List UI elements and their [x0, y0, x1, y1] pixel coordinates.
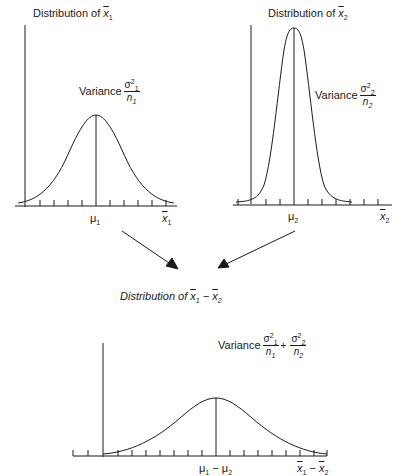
- sub: 1: [135, 85, 139, 92]
- axis-label-x1: x1: [162, 213, 171, 224]
- sub: 2: [294, 217, 298, 224]
- panel-x2: [233, 25, 392, 205]
- sub: 2: [299, 352, 303, 359]
- sup: 2: [298, 332, 302, 339]
- title-x2-prefix: Distribution of: [268, 7, 338, 19]
- title-x2: Distribution of x2: [268, 8, 348, 19]
- sub: 2: [218, 297, 222, 304]
- title-x1-sub: 1: [109, 14, 113, 21]
- variance-diff: Variance σ21 n1 + σ22 n2: [218, 334, 306, 357]
- sub: 2: [302, 339, 306, 346]
- axis-label-x2: x2: [380, 211, 389, 222]
- sub: 1: [168, 219, 172, 226]
- sub: 2: [371, 89, 375, 96]
- variance-diff-term1: σ21 n1: [263, 334, 279, 357]
- minus: −: [200, 290, 213, 302]
- mean-label-x2: μ2: [288, 211, 298, 222]
- plus-sign: +: [281, 341, 287, 351]
- variance-x2: Variance σ22 n2: [315, 84, 376, 107]
- title-diff-prefix: Distribution of: [120, 290, 190, 302]
- minus: −: [209, 462, 222, 474]
- variance-x1: Variance σ21 n1: [79, 80, 140, 103]
- variance-x2-label: Variance: [315, 90, 358, 101]
- mean-label-diff: μ1 − μ2: [199, 463, 232, 474]
- sub: 2: [368, 102, 372, 109]
- sub: 2: [324, 469, 328, 476]
- variance-x1-label: Variance: [79, 86, 122, 97]
- sup: 2: [367, 82, 371, 89]
- title-x1-prefix: Distribution of: [33, 7, 103, 19]
- variance-x2-fraction: σ22 n2: [360, 84, 376, 107]
- sub: 1: [271, 352, 275, 359]
- arrow-right-head: [218, 259, 229, 268]
- variance-diff-term2: σ22 n2: [290, 334, 306, 357]
- panel-x1: [15, 25, 177, 207]
- sub: 1: [132, 98, 136, 105]
- mean-label-x1: μ1: [90, 213, 100, 224]
- curve-diff: [103, 398, 327, 454]
- sub: 2: [228, 469, 232, 476]
- sup: 2: [270, 332, 274, 339]
- arrows: [122, 231, 295, 269]
- variance-x1-fraction: σ21 n1: [124, 80, 140, 103]
- title-diff: Distribution of x1 − x2: [120, 291, 222, 302]
- axis-label-diff: x1 − x2: [297, 463, 328, 474]
- sup: 2: [131, 78, 135, 85]
- diagram-canvas: [0, 0, 401, 476]
- arrow-left-head: [166, 258, 178, 269]
- sub: 2: [386, 217, 390, 224]
- sub: 1: [96, 219, 100, 226]
- minus: −: [306, 462, 319, 474]
- sub: 1: [274, 339, 278, 346]
- variance-diff-label: Variance: [218, 340, 261, 351]
- ticks-x2: [238, 199, 378, 205]
- title-x1: Distribution of x1: [33, 8, 113, 19]
- panel-diff: [73, 343, 327, 457]
- ticks-x1: [40, 200, 166, 206]
- arrow-left-shaft: [122, 231, 172, 265]
- title-x2-sub: 2: [344, 14, 348, 21]
- arrow-right-shaft: [224, 231, 295, 265]
